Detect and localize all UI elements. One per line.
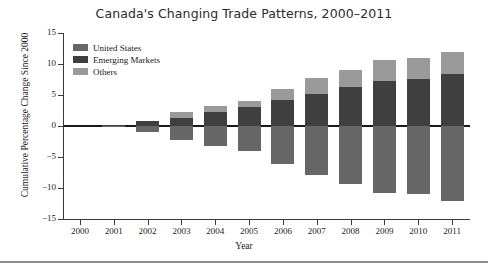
bar-segment-united-states (271, 126, 294, 164)
bar-segment-united-states (204, 126, 227, 146)
bar-group[interactable] (170, 0, 193, 269)
y-axis-tick (58, 219, 64, 220)
bar-group[interactable] (441, 0, 464, 269)
bar-segment-emerging-markets (238, 107, 261, 126)
bar-group[interactable] (305, 0, 328, 269)
bar-segment-emerging-markets (305, 94, 328, 126)
y-axis-tick-label-text: −10 (22, 182, 56, 192)
x-axis-tick (80, 220, 81, 225)
bar-segment-others (204, 106, 227, 112)
bar-segment-others (373, 60, 396, 82)
y-axis-tick-label: 10 (16, 58, 56, 70)
bar-segment-united-states (441, 126, 464, 201)
bar-segment-united-states (407, 126, 430, 194)
bar-segment-united-states (102, 126, 125, 127)
bar-group[interactable] (238, 0, 261, 269)
bar-group[interactable] (136, 0, 159, 269)
bar-segment-emerging-markets (204, 112, 227, 126)
bar-group[interactable] (102, 0, 125, 269)
y-axis-tick-label: −10 (16, 182, 56, 194)
bar-segment-united-states (305, 126, 328, 175)
bar-segment-others (407, 58, 430, 79)
y-axis-tick (58, 188, 64, 189)
y-axis-tick-label-text: −5 (22, 151, 56, 161)
y-axis-tick-label-text: 5 (22, 89, 56, 99)
y-axis-tick (58, 157, 64, 158)
bar-group[interactable] (339, 0, 362, 269)
chart-figure: Canada's Changing Trade Patterns, 2000–2… (0, 0, 488, 269)
bar-segment-emerging-markets (271, 100, 294, 126)
legend-swatch-united-states (73, 44, 88, 52)
bar-segment-emerging-markets (441, 74, 464, 126)
bar-segment-united-states (136, 126, 159, 132)
legend-swatch-emerging-markets (73, 56, 88, 64)
y-axis-tick-label: −15 (16, 213, 56, 225)
y-axis-tick (58, 33, 64, 34)
bar-segment-others (305, 78, 328, 95)
bar-segment-others (339, 70, 362, 87)
bar-segment-united-states (238, 126, 261, 151)
bar-segment-emerging-markets (170, 118, 193, 126)
bar-segment-emerging-markets (339, 87, 362, 126)
y-axis-tick-label-text: 15 (22, 27, 56, 37)
y-axis-tick-label-text: −15 (22, 213, 56, 223)
bar-segment-emerging-markets (407, 79, 430, 126)
bar-segment-united-states (373, 126, 396, 193)
bar-segment-united-states (339, 126, 362, 184)
y-axis-tick (58, 126, 64, 127)
bar-group[interactable] (373, 0, 396, 269)
bar-group[interactable] (271, 0, 294, 269)
bar-segment-others (170, 112, 193, 118)
y-axis-tick-label: −5 (16, 151, 56, 163)
legend-swatch-others (73, 68, 88, 76)
y-axis-tick-label-text: 0 (22, 120, 56, 130)
bar-group[interactable] (407, 0, 430, 269)
bar-segment-others (441, 52, 464, 74)
bar-segment-emerging-markets (373, 81, 396, 126)
y-axis-tick-label: 15 (16, 27, 56, 39)
bar-segment-others (271, 89, 294, 100)
bar-segment-united-states (170, 126, 193, 140)
y-axis-tick-label: 0 (16, 120, 56, 132)
y-axis-tick-label-text: 10 (22, 58, 56, 68)
bar-group[interactable] (204, 0, 227, 269)
bar-segment-others (238, 101, 261, 107)
y-axis-tick-label: 5 (16, 89, 56, 101)
y-axis-tick (58, 95, 64, 96)
y-axis-tick (58, 64, 64, 65)
